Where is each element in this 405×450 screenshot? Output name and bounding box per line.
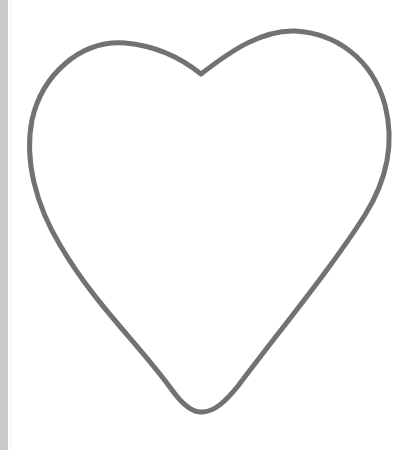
image-canvas: [0, 0, 405, 450]
heart-path: [30, 31, 389, 412]
heart-outline-icon: [0, 0, 405, 450]
